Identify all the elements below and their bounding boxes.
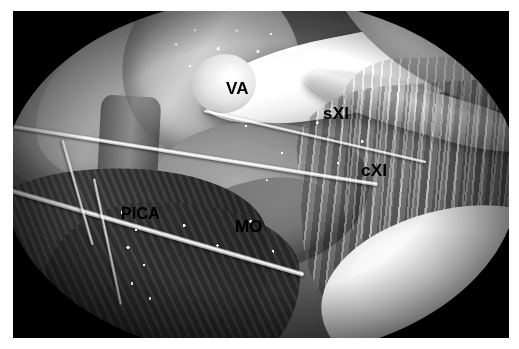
label-spinal-accessory-nerve: sXI [323,105,349,122]
vessel-strand-1 [13,121,378,185]
soft-vignette [13,11,509,338]
figure-plate: VA sXI cXI PICA MO [0,0,519,349]
scope-vignette-mask [13,11,509,338]
vessel-strand-4 [92,178,122,305]
label-vertebral-artery: VA [226,80,249,97]
medulla-oblongata-surface [136,113,376,283]
pica-vessel-band [93,95,161,268]
label-pica: PICA [121,205,160,222]
dura-flap-upper-left [13,11,304,219]
pale-tube-upper-right [296,11,509,154]
vessel-strand-5 [204,110,427,164]
wet-sheen-lower-right [309,188,509,338]
spinal-accessory-nerve-tip [187,48,262,118]
vessel-strand-3 [61,139,94,245]
tissue-field-background [13,11,509,338]
label-cranial-accessory-nerve: cXI [361,162,387,179]
vertebral-artery-structure [93,11,331,190]
dura-flap-highlight [20,11,313,210]
striated-muscle-lower-left-2 [38,194,305,338]
label-medulla-oblongata: MO [235,218,263,235]
striated-muscle-lower-left [13,151,282,338]
surgical-photograph: VA sXI cXI PICA MO [13,11,509,338]
wet-specular-highlights-mid [231,109,380,194]
wet-specular-highlights-centre [162,201,301,273]
rootlet-fibre-field-right-2 [337,53,509,263]
